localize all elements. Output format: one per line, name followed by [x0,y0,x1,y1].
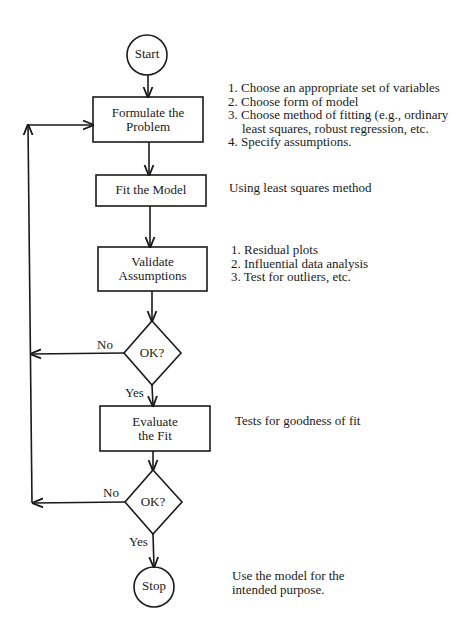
stop-note-1: Use the model for the [232,569,345,583]
arrow-decision2-no [33,502,125,503]
validate-label: Validate Assumptions [98,255,207,283]
decision1-label: OK? [127,346,177,360]
start-label: Start [127,47,167,61]
validate-notes: 1. Residual plots 2. Influential data an… [231,243,368,284]
evaluate-label-line1: Evaluate [100,415,210,429]
formulate-note-1: 1. Choose an appropriate set of variable… [228,81,448,95]
validate-note-2: 2. Influential data analysis [231,257,368,271]
validate-note-3: 3. Test for outliers, etc. [231,270,368,284]
decision1-yes-label: Yes [125,385,144,401]
validate-label-line2: Assumptions [98,269,207,283]
stop-note-2: intended purpose. [232,583,345,597]
stop-notes: Use the model for the intended purpose. [232,569,345,596]
formulate-note-3-cont: least squares, robust regression, etc. [228,122,448,136]
decision2-yes-label: Yes [129,534,148,550]
evaluate-label: Evaluate the Fit [100,415,210,443]
arrow-decision1-no [31,353,124,354]
formulate-notes: 1. Choose an appropriate set of variable… [228,81,448,149]
evaluate-note: Tests for goodness of fit [235,414,360,428]
formulate-label-line2: Problem [93,120,203,134]
arrow-decision2-yes [153,534,154,567]
formulate-note-2: 2. Choose form of model [228,95,448,109]
decision1-no-label: No [97,337,113,353]
fit-label: Fit the Model [96,183,206,197]
formulate-label: Formulate the Problem [93,106,203,134]
decision2-no-label: No [103,485,119,501]
decision2-label: OK? [128,495,178,509]
evaluate-label-line2: the Fit [100,429,210,443]
validate-note-1: 1. Residual plots [231,243,368,257]
stop-label: Stop [134,579,174,593]
feedback-line [28,125,32,503]
fit-note: Using least squares method [229,181,372,195]
formulate-label-line1: Formulate the [93,106,203,120]
arrow-decision1-yes [152,385,153,406]
formulate-note-3: 3. Choose method of fitting (e.g., ordin… [228,108,448,122]
validate-label-line1: Validate [98,255,207,269]
formulate-note-4: 4. Specify assumptions. [228,135,448,149]
